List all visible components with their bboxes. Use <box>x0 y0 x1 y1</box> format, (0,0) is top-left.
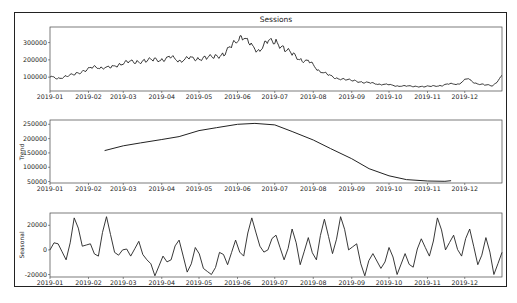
x-tick-label: 2019-12 <box>452 185 478 192</box>
seasonal-y-axis: -20000020000 <box>25 221 50 277</box>
x-tick-label: 2019-12 <box>452 93 478 100</box>
y-tick-label: 250000 <box>23 120 47 127</box>
seasonal-plot-area <box>50 213 502 277</box>
decomposition-figure: Sessions 100000200000300000 2019-012019-… <box>0 0 517 303</box>
y-tick-label: 20000 <box>27 221 47 228</box>
x-tick-label: 2019-05 <box>186 185 212 192</box>
panel-title: Sessions <box>260 15 293 24</box>
x-tick-label: 2019-10 <box>376 185 402 192</box>
x-tick-label: 2019-01 <box>37 185 63 192</box>
x-tick-label: 2019-11 <box>414 279 440 286</box>
x-tick-label: 2019-01 <box>37 93 63 100</box>
x-tick-label: 2019-03 <box>110 185 136 192</box>
x-tick-label: 2019-10 <box>376 93 402 100</box>
x-tick-label: 2019-08 <box>300 279 326 286</box>
sessions-x-axis: 2019-012019-022019-032019-042019-052019-… <box>37 91 478 100</box>
sessions-panel: Sessions 100000200000300000 2019-012019-… <box>23 15 502 100</box>
x-tick-label: 2019-03 <box>110 93 136 100</box>
y-tick-label: 200000 <box>23 56 47 63</box>
sessions-y-axis: 100000200000300000 <box>23 39 50 81</box>
x-tick-label: 2019-07 <box>262 279 288 286</box>
x-tick-label: 2019-08 <box>300 93 326 100</box>
seasonal-y-label: Seasonal <box>18 231 25 258</box>
x-tick-label: 2019-11 <box>414 185 440 192</box>
x-tick-label: 2019-07 <box>262 93 288 100</box>
x-tick-label: 2019-09 <box>339 93 365 100</box>
x-tick-label: 2019-04 <box>149 279 175 286</box>
y-tick-label: 200000 <box>23 135 47 142</box>
y-tick-label: 100000 <box>23 73 47 80</box>
sessions-line <box>50 36 502 87</box>
y-tick-label: -20000 <box>25 271 47 278</box>
trend-plot-area <box>50 120 502 183</box>
y-tick-label: 0 <box>43 246 47 253</box>
trend-x-axis: 2019-012019-022019-032019-042019-052019-… <box>37 183 478 192</box>
x-tick-label: 2019-01 <box>37 279 63 286</box>
x-tick-label: 2019-08 <box>300 185 326 192</box>
seasonal-panel: Seasonal -20000020000 2019-012019-022019… <box>18 213 502 286</box>
y-tick-label: 50000 <box>27 178 47 185</box>
x-tick-label: 2019-04 <box>149 185 175 192</box>
x-tick-label: 2019-09 <box>339 279 365 286</box>
sessions-plot-area <box>50 27 502 91</box>
seasonal-x-axis: 2019-012019-022019-032019-042019-052019-… <box>37 277 478 286</box>
y-tick-label: 300000 <box>23 39 47 46</box>
y-tick-label: 150000 <box>23 149 47 156</box>
trend-line <box>105 123 452 181</box>
trend-y-axis: 50000100000150000200000250000 <box>23 120 50 184</box>
y-tick-label: 100000 <box>23 163 47 170</box>
x-tick-label: 2019-11 <box>414 93 440 100</box>
x-tick-label: 2019-02 <box>75 279 101 286</box>
x-tick-label: 2019-06 <box>224 279 250 286</box>
x-tick-label: 2019-02 <box>75 185 101 192</box>
x-tick-label: 2019-05 <box>186 93 212 100</box>
trend-panel: Trend 50000100000150000200000250000 2019… <box>18 120 502 192</box>
x-tick-label: 2019-10 <box>376 279 402 286</box>
x-tick-label: 2019-09 <box>339 185 365 192</box>
x-tick-label: 2019-03 <box>110 279 136 286</box>
x-tick-label: 2019-06 <box>224 93 250 100</box>
x-tick-label: 2019-12 <box>452 279 478 286</box>
x-tick-label: 2019-02 <box>75 93 101 100</box>
seasonal-line <box>50 217 502 276</box>
x-tick-label: 2019-06 <box>224 185 250 192</box>
x-tick-label: 2019-05 <box>186 279 212 286</box>
x-tick-label: 2019-04 <box>149 93 175 100</box>
x-tick-label: 2019-07 <box>262 185 288 192</box>
